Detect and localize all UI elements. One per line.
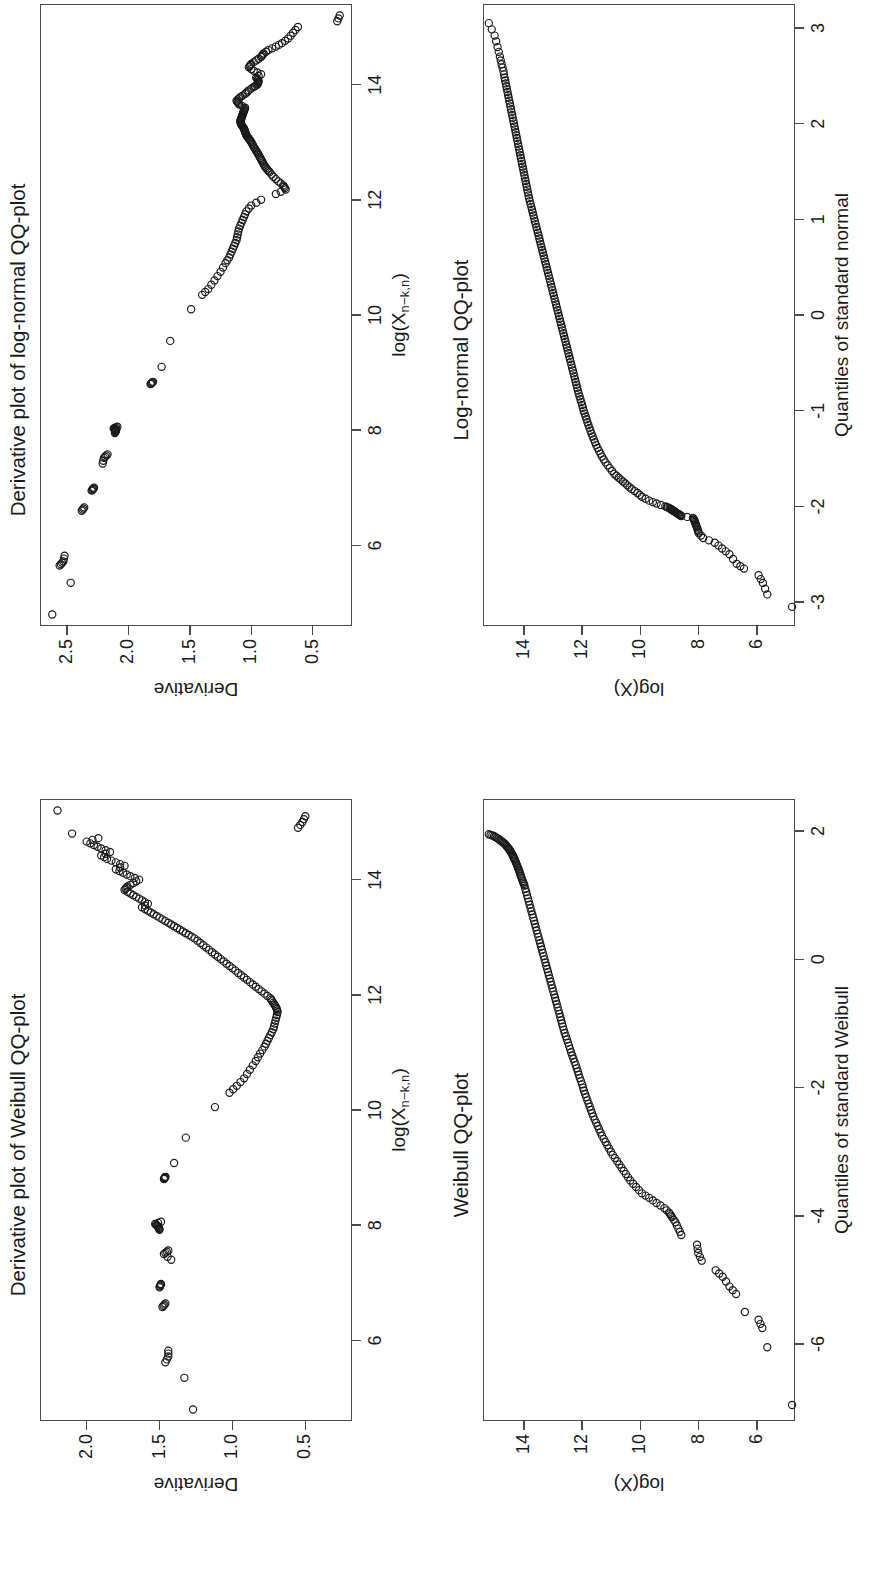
- x-tick-mark: [352, 545, 361, 546]
- panel-derivative-weibull-qq: Derivative plot of Weibull QQ-plot 68101…: [0, 765, 436, 1525]
- figure-canvas: Derivative plot of log-normal QQ-plot 68…: [0, 0, 884, 1591]
- x-tick-label: 10: [365, 1080, 386, 1140]
- axis-group: 681012140.51.01.52.0: [0, 765, 436, 1525]
- y-tick-mark: [305, 1421, 306, 1430]
- x-tick-label: -2: [808, 1058, 829, 1118]
- x-axis-label: Quantiles of standard normal: [831, 4, 853, 626]
- x-tick-mark: [795, 219, 804, 220]
- x-tick-label: -3: [808, 572, 829, 632]
- x-tick-mark: [795, 601, 804, 602]
- x-tick-mark: [795, 1087, 804, 1088]
- y-tick-mark: [756, 626, 757, 635]
- y-axis-label: Derivative: [40, 1473, 352, 1495]
- y-tick-mark: [86, 1421, 87, 1430]
- x-tick-mark: [795, 830, 804, 831]
- x-tick-label: 8: [365, 1195, 386, 1255]
- y-tick-mark: [698, 1421, 699, 1430]
- x-tick-label: 0: [808, 285, 829, 345]
- y-axis-label: log(X): [483, 678, 795, 700]
- x-tick-mark: [795, 1215, 804, 1216]
- x-tick-mark: [795, 314, 804, 315]
- x-tick-label: -2: [808, 476, 829, 536]
- y-tick-mark: [312, 626, 313, 635]
- x-tick-label: 8: [365, 400, 386, 460]
- x-tick-mark: [352, 430, 361, 431]
- y-tick-mark: [66, 626, 67, 635]
- y-axis-label: Derivative: [40, 678, 352, 700]
- y-tick-mark: [232, 1421, 233, 1430]
- y-tick-mark: [128, 626, 129, 635]
- axis-group: 681012140.51.01.52.02.5: [0, 0, 436, 730]
- axis-group: -6-4-20268101214: [443, 765, 879, 1525]
- x-tick-mark: [795, 959, 804, 960]
- panel-body: Weibull QQ-plot -6-4-20268101214 Quantil…: [443, 765, 879, 1525]
- x-tick-mark: [795, 410, 804, 411]
- x-tick-label: 1: [808, 189, 829, 249]
- x-axis-label: log(Xn−k,n): [388, 4, 412, 626]
- x-tick-label: 6: [365, 1310, 386, 1370]
- x-axis-label: log(Xn−k,n): [388, 799, 412, 1421]
- y-tick-mark: [581, 1421, 582, 1430]
- y-axis-label: log(X): [483, 1473, 795, 1495]
- x-tick-mark: [352, 84, 361, 85]
- x-tick-mark: [352, 314, 361, 315]
- x-tick-mark: [352, 1225, 361, 1226]
- x-tick-label: 6: [365, 515, 386, 575]
- panel-log-normal-qq: Log-normal QQ-plot -3-2-1012368101214 Qu…: [443, 0, 879, 730]
- x-tick-label: 2: [808, 801, 829, 861]
- panel-weibull-qq: Weibull QQ-plot -6-4-20268101214 Quantil…: [443, 765, 879, 1525]
- x-tick-label: -6: [808, 1314, 829, 1374]
- x-tick-label: -1: [808, 381, 829, 441]
- x-tick-mark: [795, 27, 804, 28]
- y-tick-mark: [698, 626, 699, 635]
- x-tick-mark: [352, 879, 361, 880]
- panel-body: Log-normal QQ-plot -3-2-1012368101214 Qu…: [443, 0, 879, 730]
- y-tick-mark: [581, 626, 582, 635]
- x-tick-mark: [352, 1340, 361, 1341]
- x-tick-label: 3: [808, 0, 829, 58]
- y-tick-mark: [523, 626, 524, 635]
- y-tick-mark: [640, 1421, 641, 1430]
- panel-body: Derivative plot of log-normal QQ-plot 68…: [0, 0, 436, 730]
- panel-body: Derivative plot of Weibull QQ-plot 68101…: [0, 765, 436, 1525]
- x-tick-mark: [795, 506, 804, 507]
- y-tick-mark: [189, 626, 190, 635]
- x-tick-mark: [352, 1109, 361, 1110]
- x-tick-label: 0: [808, 929, 829, 989]
- x-tick-label: 12: [365, 170, 386, 230]
- x-tick-mark: [352, 994, 361, 995]
- x-tick-mark: [795, 1343, 804, 1344]
- panel-derivative-log-normal-qq: Derivative plot of log-normal QQ-plot 68…: [0, 0, 436, 730]
- x-tick-label: 12: [365, 965, 386, 1025]
- x-tick-label: 10: [365, 285, 386, 345]
- x-tick-label: -4: [808, 1186, 829, 1246]
- y-tick-mark: [640, 626, 641, 635]
- axis-group: -3-2-1012368101214: [443, 0, 879, 730]
- y-tick-mark: [523, 1421, 524, 1430]
- y-tick-mark: [159, 1421, 160, 1430]
- x-axis-label: Quantiles of standard Weibull: [831, 799, 853, 1421]
- y-tick-mark: [251, 626, 252, 635]
- y-tick-mark: [756, 1421, 757, 1430]
- x-tick-mark: [795, 123, 804, 124]
- x-tick-mark: [352, 199, 361, 200]
- x-tick-label: 2: [808, 94, 829, 154]
- x-tick-label: 14: [365, 850, 386, 910]
- x-tick-label: 14: [365, 55, 386, 115]
